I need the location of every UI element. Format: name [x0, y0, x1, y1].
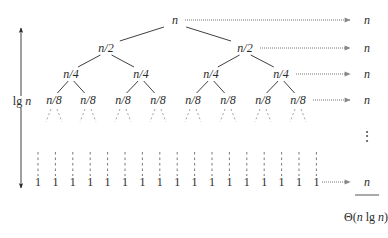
leaf-node: 1 — [139, 175, 145, 189]
tree-node: n/8 — [150, 93, 165, 107]
level-cost: n — [364, 41, 370, 55]
dashed-edge — [196, 109, 201, 122]
tree-edge — [112, 55, 134, 67]
tree-node: n/2 — [237, 41, 252, 55]
dashed-edge — [220, 109, 225, 122]
dashed-edge — [301, 109, 306, 122]
recursion-tree-diagram: nn/2n/2n/4n/4n/4n/4n/8n/8n/8n/8n/8n/8n/8… — [0, 0, 388, 238]
tree-node: n/8 — [185, 93, 200, 107]
leaf-node: 1 — [296, 175, 302, 189]
leaf-node: 1 — [226, 175, 232, 189]
leaf-node: 1 — [35, 175, 41, 189]
dashed-edge — [126, 109, 131, 122]
leaf-node: 1 — [174, 175, 180, 189]
dashed-edge — [115, 109, 120, 122]
tree-edge — [251, 55, 274, 67]
root-node: n — [172, 13, 178, 27]
dashed-edge — [266, 109, 271, 122]
leaf-node: 1 — [209, 175, 215, 189]
tree-node: n/2 — [98, 41, 113, 55]
tree-node: n/4 — [63, 67, 78, 81]
leaf-node: 1 — [261, 175, 267, 189]
tree-node: n/8 — [220, 93, 235, 107]
dashed-edge — [185, 109, 190, 122]
tree-edge — [74, 81, 85, 93]
vertical-ellipsis: ⋮ — [361, 129, 373, 143]
tree-nodes: nn/2n/2n/4n/4n/4n/4n/8n/8n/8n/8n/8n/8n/8… — [46, 13, 305, 107]
tree-edge — [284, 81, 295, 93]
level-cost: n — [364, 175, 370, 189]
tree-node: n/8 — [46, 93, 61, 107]
dashed-edge — [290, 109, 295, 122]
leaf-node: 1 — [105, 175, 111, 189]
leaf-node: 1 — [192, 175, 198, 189]
tree-edge — [214, 81, 225, 93]
leaf-node: 1 — [244, 175, 250, 189]
leaf-node: 1 — [87, 175, 93, 189]
dashed-subtrees — [46, 109, 306, 122]
tree-node: n/8 — [290, 93, 305, 107]
tree-edge — [127, 81, 139, 93]
level-costs: nnnn⋮n — [361, 13, 373, 189]
dashed-edge — [80, 109, 85, 122]
tree-edge — [144, 81, 155, 93]
tree-node: n/4 — [203, 67, 218, 81]
tree-edge — [78, 55, 100, 67]
leaf-node: 1 — [52, 175, 58, 189]
total-cost: Θ(n lg n) — [344, 210, 388, 224]
tree-node: n/8 — [80, 93, 95, 107]
height-label: lg n — [13, 94, 31, 108]
tree-node: n/8 — [255, 93, 270, 107]
dashed-edge — [150, 109, 155, 122]
tree-edge — [120, 27, 164, 41]
tree-node: n/4 — [133, 67, 148, 81]
tree-edge — [57, 81, 68, 93]
level-cost: n — [364, 13, 370, 27]
tree-edge — [186, 27, 231, 41]
leaf-node: 1 — [122, 175, 128, 189]
tree-leaves: 11111111111111111 — [35, 152, 319, 189]
leaf-node: 1 — [313, 175, 319, 189]
tree-edge — [267, 81, 279, 93]
level-cost: n — [364, 93, 370, 107]
dashed-edge — [231, 109, 236, 122]
level-cost: n — [364, 67, 370, 81]
dashed-edge — [255, 109, 260, 122]
dashed-edge — [46, 109, 51, 122]
leaf-node: 1 — [157, 175, 163, 189]
tree-node: n/8 — [115, 93, 130, 107]
tree-edge — [197, 81, 209, 93]
tree-node: n/4 — [273, 67, 288, 81]
leaf-node: 1 — [70, 175, 76, 189]
dashed-edge — [57, 109, 62, 122]
dashed-edge — [91, 109, 96, 122]
leaf-node: 1 — [279, 175, 285, 189]
tree-edge — [218, 55, 240, 67]
tree-edges — [57, 27, 294, 93]
dashed-edge — [161, 109, 166, 122]
